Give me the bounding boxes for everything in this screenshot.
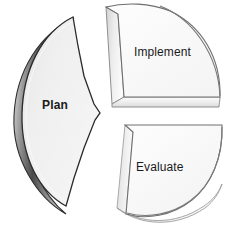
cycle-diagram: Plan Implement Evaluate (0, 0, 226, 233)
segment-label-plan: Plan (42, 98, 68, 112)
cycle-diagram-graphic (0, 0, 226, 233)
segment-label-implement: Implement (134, 45, 191, 59)
segment-plan[interactable] (14, 17, 100, 214)
segment-label-evaluate: Evaluate (136, 160, 184, 174)
implement-bottom-face (112, 97, 220, 107)
